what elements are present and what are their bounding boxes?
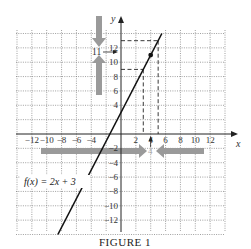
x-tick-label: 6 xyxy=(163,135,168,145)
y-limit-label: 11 xyxy=(92,47,101,57)
y-tick-label: −12 xyxy=(104,215,118,225)
y-axis-label: y xyxy=(110,13,116,24)
y-axis-arrow-icon xyxy=(118,16,124,23)
y-tick-label: −2 xyxy=(108,143,118,153)
x-tick-label: 12 xyxy=(206,135,215,145)
arrow-up-bar xyxy=(96,63,102,95)
x-tick-label: 10 xyxy=(191,135,201,145)
arrow-left-head xyxy=(156,144,164,158)
x-tick-label: 2 xyxy=(134,135,139,145)
figure-caption: FIGURE 1 xyxy=(99,236,151,248)
x-tick-label: −6 xyxy=(72,135,82,145)
x-axis-label: x xyxy=(235,138,241,149)
x-tick-labels: −12−10−8−6−424681012 xyxy=(25,135,215,145)
y-tick-label: −4 xyxy=(108,158,118,168)
y-tick-label: 4 xyxy=(114,100,119,110)
arrow-down-head xyxy=(92,38,106,47)
x-limit-label: 4 xyxy=(148,146,153,156)
x-tick-label: −4 xyxy=(86,135,96,145)
highlight-point xyxy=(148,53,153,58)
figure-graph: x y −12−10−8−6−424681012 1210864−2−4−6−8… xyxy=(0,0,251,249)
x-tick-label: 8 xyxy=(178,135,183,145)
y-tick-label: −8 xyxy=(108,186,118,196)
arrow-left-bar xyxy=(164,148,204,154)
x-tick-label: −8 xyxy=(57,135,67,145)
arrow-down-bar xyxy=(96,16,102,38)
y-tick-label: −6 xyxy=(108,172,118,182)
arrow-right-head xyxy=(139,144,147,158)
y-tick-label: 6 xyxy=(114,86,119,96)
y-tick-label: 8 xyxy=(114,72,119,82)
arrow-right-bar xyxy=(41,148,139,154)
y-tick-label: 10 xyxy=(109,57,119,67)
x-tick-label: −10 xyxy=(40,135,55,145)
axes xyxy=(16,16,238,232)
x-axis-arrow-icon xyxy=(231,131,238,137)
function-label: f(x) = 2x + 3 xyxy=(24,176,76,188)
y-tick-label: −10 xyxy=(104,201,119,211)
x-tick-label: −12 xyxy=(25,135,39,145)
